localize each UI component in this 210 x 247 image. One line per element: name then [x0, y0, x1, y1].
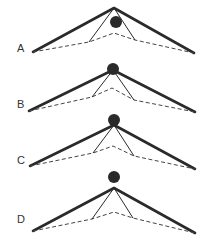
- wing-outline: [33, 8, 194, 53]
- weight-dot-icon: [108, 114, 120, 126]
- strut-lines: [92, 188, 133, 219]
- weight-dot-icon: [108, 171, 120, 183]
- wing-outline: [33, 188, 195, 233]
- wing-outline: [29, 70, 195, 112]
- panel-label: C: [17, 154, 25, 166]
- panel-c: C: [17, 114, 195, 169]
- dashed-keel-line: [33, 212, 195, 233]
- panel-label: D: [17, 213, 25, 225]
- panel-label: A: [17, 42, 25, 54]
- weight-dot-icon: [107, 63, 119, 75]
- panel-d: D: [17, 171, 195, 233]
- panel-label: B: [17, 98, 24, 110]
- wing-diagram: A B C D: [0, 0, 210, 247]
- strut-lines: [93, 125, 134, 156]
- weight-dot-icon: [110, 16, 122, 28]
- dashed-keel-line: [30, 146, 195, 169]
- wing-outline: [30, 125, 195, 169]
- panel-b: B: [17, 63, 195, 112]
- panel-a: A: [17, 8, 194, 54]
- dashed-keel-line: [33, 33, 194, 53]
